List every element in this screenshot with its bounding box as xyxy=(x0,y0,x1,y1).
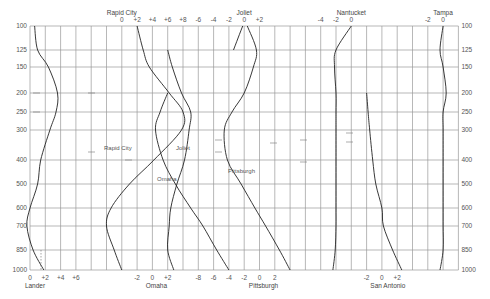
top-tick-label: 0 xyxy=(349,16,353,23)
y-axis-labels-right: 1001251502002503004005006007008501000 xyxy=(461,22,476,273)
annotation-pittsburgh: Pittsburgh xyxy=(228,168,255,174)
y-tick-label-right: 1000 xyxy=(461,266,476,273)
curve-annotations: Rapid CityJolietOmahaPittsburgh xyxy=(33,93,353,270)
bottom-tick-label: 0 xyxy=(151,274,155,281)
annotation-joliet: Joliet xyxy=(176,145,190,151)
curve-pittsburgh xyxy=(224,26,290,270)
bottom-tick-label: +6 xyxy=(72,274,80,281)
bottom-tick-label: +4 xyxy=(57,274,65,281)
station-label-top: Nantucket xyxy=(337,9,366,16)
bottom-tick-label: 0 xyxy=(258,274,262,281)
y-tick-label-right: 600 xyxy=(461,204,472,211)
y-tick-label-right: 300 xyxy=(461,126,472,133)
y-tick-label-right: 150 xyxy=(461,63,472,70)
curve-lander xyxy=(27,26,58,270)
sounding-curves xyxy=(27,26,446,270)
bottom-tick-label: -4 xyxy=(226,274,232,281)
bottom-tick-label: 0 xyxy=(380,274,384,281)
bottom-tick-label: -8 xyxy=(195,274,201,281)
y-tick-label-left: 125 xyxy=(16,46,27,53)
top-axis-labels: 0+2+4+6+8Rapid City-6-4-20+2Joliet-4-20N… xyxy=(107,9,453,23)
bottom-tick-label: +2 xyxy=(42,274,50,281)
bottom-tick-label: -2 xyxy=(364,274,370,281)
station-label-top: Rapid City xyxy=(107,9,138,17)
top-tick-label: -4 xyxy=(211,16,217,23)
bottom-tick-label: +2 xyxy=(164,274,172,281)
y-tick-label-left: 100 xyxy=(16,22,27,29)
bottom-tick-label: 0 xyxy=(28,274,32,281)
y-tick-label-left: 200 xyxy=(16,89,27,96)
y-tick-label-right: 125 xyxy=(461,46,472,53)
y-tick-label-left: 500 xyxy=(16,180,27,187)
top-tick-label: 0 xyxy=(120,16,124,23)
station-label-bottom: Pittsburgh xyxy=(249,282,279,290)
top-tick-label: -2 xyxy=(226,16,232,23)
vertical-gridlines xyxy=(30,26,458,270)
top-tick-label: -2 xyxy=(425,16,431,23)
y-axis-labels-left: 1001251502002503004005006007008501000 xyxy=(13,22,28,273)
annotation-rapid-city: Rapid City xyxy=(104,145,132,151)
top-tick-label: +2 xyxy=(256,16,264,23)
y-tick-label-left: 400 xyxy=(16,156,27,163)
curve-san-antonio xyxy=(367,93,402,270)
y-tick-label-right: 700 xyxy=(461,222,472,229)
y-tick-label-right: 500 xyxy=(461,180,472,187)
top-tick-label: -2 xyxy=(333,16,339,23)
y-tick-label-left: 1000 xyxy=(13,266,28,273)
top-tick-label: +6 xyxy=(164,16,172,23)
top-tick-label: +2 xyxy=(133,16,141,23)
annotation-omaha: Omaha xyxy=(157,176,177,182)
y-tick-label-left: 250 xyxy=(16,108,27,115)
y-tick-label-left: 600 xyxy=(16,204,27,211)
bottom-tick-label: -6 xyxy=(211,274,217,281)
bottom-axis-labels: 0+2+4+6Lander-20+2Omaha-8-6-4-202Pittsbu… xyxy=(25,274,406,290)
station-label-top: Tampa xyxy=(433,9,453,17)
y-tick-label-left: 700 xyxy=(16,222,27,229)
station-label-bottom: Lander xyxy=(25,282,46,289)
top-tick-label: 0 xyxy=(242,16,246,23)
y-tick-label-right: 100 xyxy=(461,22,472,29)
bottom-tick-label: 2 xyxy=(273,274,277,281)
y-tick-label-left: 850 xyxy=(16,246,27,253)
top-tick-label: +4 xyxy=(149,16,157,23)
bottom-tick-label: +2 xyxy=(393,274,401,281)
y-tick-label-right: 400 xyxy=(461,156,472,163)
y-tick-label-left: 300 xyxy=(16,126,27,133)
bottom-tick-label: -2 xyxy=(241,274,247,281)
y-tick-label-right: 250 xyxy=(461,108,472,115)
top-tick-label: -4 xyxy=(318,16,324,23)
top-tick-label: -6 xyxy=(195,16,201,23)
y-tick-label-left: 150 xyxy=(16,63,27,70)
top-tick-label: +8 xyxy=(179,16,187,23)
y-tick-label-right: 850 xyxy=(461,246,472,253)
curve-joliet-upper- xyxy=(234,26,243,50)
y-tick-label-right: 200 xyxy=(461,89,472,96)
sounding-chart: 1001251502002503004005006007008501000 10… xyxy=(0,0,490,299)
station-label-bottom: Omaha xyxy=(146,282,168,289)
top-tick-label: 0 xyxy=(441,16,445,23)
bottom-tick-label: -2 xyxy=(134,274,140,281)
station-label-bottom: San Antonio xyxy=(370,282,405,289)
station-label-top: Joliet xyxy=(237,9,252,16)
